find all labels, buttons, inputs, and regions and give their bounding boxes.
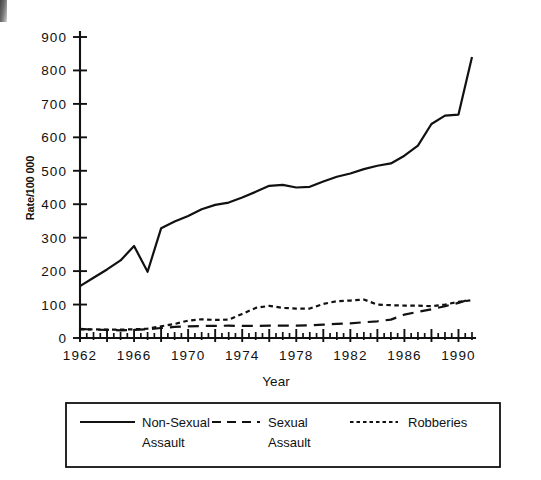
x-tick-label: 1982 (333, 348, 367, 363)
legend-label-secondary: Assault (268, 435, 311, 450)
series-line-sexual-assault (80, 299, 472, 331)
legend-label-secondary: Assault (142, 435, 185, 450)
y-tick-label: 800 (41, 63, 67, 78)
x-axis (80, 329, 475, 342)
x-tick-labels: 19621966197019741978198219861990 (63, 348, 476, 363)
x-tick-label: 1974 (225, 348, 259, 363)
y-tick-label: 100 (41, 298, 67, 313)
legend-label-primary: Non-Sexual (142, 415, 210, 430)
y-tick-label: 900 (41, 30, 67, 45)
y-tick-label: 500 (41, 164, 67, 179)
x-tick-label: 1990 (441, 348, 475, 363)
y-tick-labels: 0100200300400500600700800900 (41, 30, 67, 346)
x-tick-label: 1966 (117, 348, 151, 363)
y-tick-label: 0 (58, 331, 67, 346)
x-tick-label: 1962 (63, 348, 97, 363)
x-tick-label: 1986 (387, 348, 421, 363)
y-tick-label: 200 (41, 264, 67, 279)
y-tick-label: 400 (41, 197, 67, 212)
y-tick-label: 700 (41, 97, 67, 112)
x-tick-label: 1978 (279, 348, 313, 363)
legend-label-primary: Robberies (408, 415, 468, 430)
data-series-group (80, 57, 472, 330)
y-axis (73, 32, 87, 338)
x-axis-title: Year (262, 374, 290, 389)
y-tick-label: 600 (41, 130, 67, 145)
series-line-robberies (80, 300, 472, 330)
chart-figure: 0100200300400500600700800900 19621966197… (0, 0, 541, 480)
y-axis-title: Rate/100 000 (24, 156, 36, 220)
chart-legend: Non-SexualAssaultSexualAssaultRobberies (66, 403, 500, 467)
scan-edge-artifact (0, 0, 7, 22)
series-line-non-sexual-assault (80, 57, 472, 286)
y-tick-label: 300 (41, 231, 67, 246)
legend-label-primary: Sexual (268, 415, 308, 430)
x-tick-label: 1970 (171, 348, 205, 363)
line-chart-plot: 0100200300400500600700800900 19621966197… (0, 0, 541, 480)
